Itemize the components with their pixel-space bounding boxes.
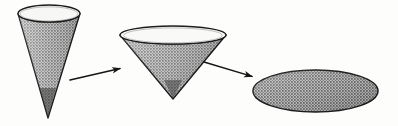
cone-flattening-diagram [0, 0, 398, 126]
figure-canvas: narrow cone wide shallow cone flat disk … [0, 0, 398, 126]
stage-1-cone-mouth [18, 5, 80, 22]
stage-3-flat-ellipse[interactable] [253, 70, 378, 112]
stage-3-disk-shading [253, 70, 378, 112]
stage-2-cone-mouth [120, 26, 226, 44]
